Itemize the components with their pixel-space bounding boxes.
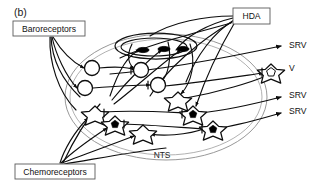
output-label-srv-1: SRV (289, 40, 307, 50)
efferent-srv-2 (200, 97, 281, 113)
neuron-circle-1 (85, 61, 100, 76)
baro-fiber-1 (51, 37, 80, 97)
baroreceptor-fiber-group (50, 37, 84, 110)
nts-boundary-ellipse-inner (70, 39, 262, 155)
hda-box[interactable]: HDA (233, 8, 270, 24)
efferent-star2-path (186, 76, 266, 98)
neuron-circle-4 (151, 78, 166, 93)
neuron-circle-2 (78, 81, 93, 96)
output-label-srv-2: SRV (289, 90, 307, 100)
neuron-filled-ellipse-1 (137, 47, 149, 52)
nts-boundary-ellipse (65, 34, 267, 160)
neuron-filled-ellipse-3 (177, 46, 189, 51)
neuron-star-open-3 (129, 125, 156, 144)
chemoreceptors-box[interactable]: Chemoreceptors (15, 164, 95, 179)
fiber-circle2-to-circle4 (93, 85, 150, 88)
baroreceptors-box[interactable]: Baroreceptors (13, 21, 85, 36)
open-star-neurons (81, 92, 191, 144)
open-circle-neurons (78, 61, 166, 96)
nts-region-label: NTS (154, 150, 171, 160)
fiber-starfilled1-to-starfilled3 (123, 124, 205, 129)
figure-panel: NTS (b) Baroreceptors Chemoreceptors HDA… (0, 0, 336, 186)
nts-circuit-diagram: NTS (b) Baroreceptors Chemoreceptors HDA… (0, 0, 336, 186)
filled-ellipse-neurons (137, 46, 189, 52)
fiber-star1-to-starfilled2 (103, 111, 186, 113)
output-label-srv-3: SRV (289, 106, 307, 116)
neuron-filled-ellipse-2 (158, 46, 170, 51)
fiber-circle1-to-circle3 (99, 67, 133, 70)
efferent-to-star-ring (165, 73, 263, 86)
efferent-srv-3 (220, 113, 281, 128)
chemoreceptors-label: Chemoreceptors (23, 167, 87, 177)
hda-label: HDA (242, 11, 260, 21)
baro-fiber-2 (53, 37, 84, 68)
neuron-circle-3 (134, 63, 149, 78)
neuron-star-open-2 (164, 92, 191, 111)
baroreceptors-label: Baroreceptors (22, 24, 76, 34)
output-label-v: V (289, 63, 295, 73)
panel-label: (b) (14, 6, 27, 18)
